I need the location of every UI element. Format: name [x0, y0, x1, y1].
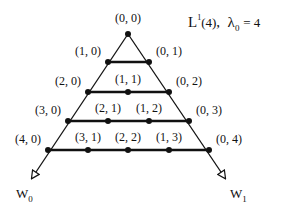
lambda-symbol: λ [228, 14, 235, 30]
node-label: (0, 3) [196, 103, 222, 118]
node-label: (0, 1) [156, 44, 182, 59]
node-label: (3, 1) [75, 130, 101, 145]
w1-label: W1 [230, 186, 247, 204]
node-dot [45, 147, 51, 153]
node-label: (0, 0) [115, 11, 141, 26]
node-label: (1, 0) [75, 44, 101, 59]
node-label: (1, 3) [156, 130, 182, 145]
node-label: (1, 1) [115, 72, 141, 87]
node-dot [105, 118, 111, 124]
node-dot [65, 118, 71, 124]
node-label: (4, 0) [15, 132, 41, 147]
node-dot [85, 89, 91, 95]
title-symbol: L [188, 14, 197, 30]
node-label: (0, 4) [216, 132, 242, 147]
node-label: (0, 2) [176, 74, 202, 89]
node-dot [146, 59, 152, 65]
node-label: (3, 0) [35, 103, 61, 118]
node-dot [166, 89, 172, 95]
node-label: (2, 0) [55, 74, 81, 89]
diagram-title: L1(4), λ0 = 4 [188, 14, 260, 33]
node-dot [125, 89, 131, 95]
node-label: (2, 2) [115, 130, 141, 145]
node-dot [166, 147, 172, 153]
node-dot [125, 147, 131, 153]
node-label: (2, 1) [95, 101, 121, 116]
node-dot [125, 31, 131, 37]
node-dot [105, 59, 111, 65]
node-dot [186, 118, 192, 124]
w0-label: W0 [16, 186, 33, 204]
node-dot [146, 118, 152, 124]
node-dot [206, 147, 212, 153]
node-label: (1, 2) [136, 101, 162, 116]
node-dot [85, 147, 91, 153]
